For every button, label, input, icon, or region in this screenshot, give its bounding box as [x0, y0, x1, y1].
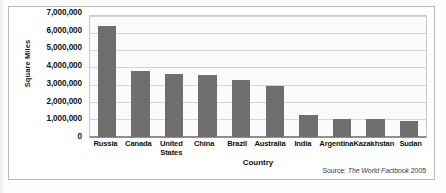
source-note: Source: The World Factbook 2005 — [322, 167, 426, 174]
bar — [198, 75, 216, 137]
y-tick-label: 5,000,000 — [46, 44, 82, 52]
bar — [266, 86, 284, 137]
bar — [131, 71, 149, 137]
bar — [299, 115, 317, 137]
y-tick-label: 0 — [78, 133, 82, 141]
y-tick-label: 4,000,000 — [46, 62, 82, 70]
y-tick-label: 3,000,000 — [46, 80, 82, 88]
bar — [333, 119, 351, 137]
bar — [98, 26, 116, 137]
x-tick-label: Russia — [89, 140, 122, 157]
x-tick-label: Canada — [122, 140, 155, 157]
source-work-title: The World Factbook — [348, 167, 409, 174]
bar-slot — [124, 16, 158, 137]
x-tick-label: Kazakhstan — [353, 140, 394, 157]
y-tick-label: 6,000,000 — [46, 27, 82, 35]
y-tick-label: 1,000,000 — [46, 115, 82, 123]
bar-slot — [359, 16, 393, 137]
bar-slot — [292, 16, 326, 137]
x-tick-label: Brazil — [221, 140, 254, 157]
bar-series — [90, 16, 426, 137]
plot-area — [89, 15, 427, 138]
bar-slot — [325, 16, 359, 137]
source-label: Source: — [322, 167, 345, 174]
scanned-page: Square Miles 01,000,0002,000,0003,000,00… — [0, 0, 446, 193]
y-axis-tick-labels: 01,000,0002,000,0003,000,0004,000,0005,0… — [23, 12, 85, 138]
x-tick-label: Argentina — [319, 140, 353, 157]
bar-slot — [191, 16, 225, 137]
chart-figure-frame: Square Miles 01,000,0002,000,0003,000,00… — [8, 6, 435, 180]
bar-slot — [392, 16, 426, 137]
x-tick-label: United States — [155, 140, 188, 157]
scan-edge — [0, 0, 5, 193]
x-tick-label: China — [188, 140, 221, 157]
bar-slot — [157, 16, 191, 137]
y-tick-label: 7,000,000 — [46, 9, 82, 17]
bar-slot — [90, 16, 124, 137]
bar — [232, 80, 250, 137]
bar — [366, 119, 384, 137]
bar-slot — [224, 16, 258, 137]
x-axis-title: Country — [89, 158, 427, 167]
bar-slot — [258, 16, 292, 137]
source-year: 2005 — [411, 167, 426, 174]
x-axis-tick-labels: RussiaCanadaUnited StatesChinaBrazilAust… — [89, 140, 427, 157]
bar — [165, 74, 183, 137]
x-tick-label: Australia — [254, 140, 287, 157]
y-tick-label: 2,000,000 — [46, 98, 82, 106]
x-tick-label: India — [286, 140, 319, 157]
bar — [400, 121, 418, 137]
x-tick-label: Sudan — [394, 140, 427, 157]
